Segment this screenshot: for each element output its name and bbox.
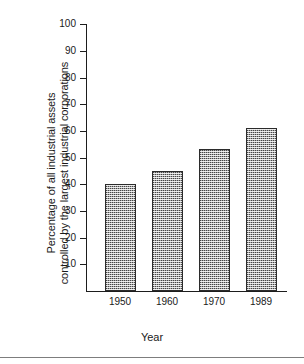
y-tick-label: 90 bbox=[16, 46, 76, 56]
bar-1950 bbox=[105, 184, 136, 291]
y-tick-label: 100 bbox=[16, 19, 76, 29]
bar-1989 bbox=[246, 128, 277, 291]
y-axis-title-line-1: Percentage of all industrial assets bbox=[45, 93, 58, 254]
y-axis-title: Percentage of all industrial assets cont… bbox=[41, 18, 75, 328]
y-tick-mark bbox=[80, 24, 86, 25]
bottom-divider bbox=[0, 357, 304, 358]
y-tick-label: 60 bbox=[16, 126, 76, 136]
y-axis-line bbox=[86, 24, 87, 292]
y-tick-label: 80 bbox=[16, 73, 76, 83]
y-tick-label: 70 bbox=[16, 99, 76, 109]
x-tick-label-1989: 1989 bbox=[231, 296, 291, 308]
y-tick-mark bbox=[80, 264, 86, 265]
x-axis-baseline bbox=[86, 291, 287, 292]
y-axis-title-line-2: controlled by the largest industrial cor… bbox=[58, 62, 71, 285]
y-tick-mark bbox=[80, 158, 86, 159]
y-tick-label: 50 bbox=[16, 153, 76, 163]
y-tick-label: 40 bbox=[16, 179, 76, 189]
y-tick-label: 30 bbox=[16, 206, 76, 216]
y-tick-label: 20 bbox=[16, 233, 76, 243]
y-tick-mark bbox=[80, 51, 86, 52]
y-tick-label: 10 bbox=[16, 259, 76, 269]
bar-1960 bbox=[152, 171, 183, 291]
bar-chart-figure: Percentage of all industrial assets cont… bbox=[0, 0, 304, 364]
y-tick-mark bbox=[80, 104, 86, 105]
y-tick-mark bbox=[80, 211, 86, 212]
x-axis-title: Year bbox=[0, 331, 304, 344]
y-tick-mark bbox=[80, 78, 86, 79]
bar-1970 bbox=[199, 149, 230, 291]
y-tick-mark bbox=[80, 131, 86, 132]
y-tick-mark bbox=[80, 238, 86, 239]
y-tick-mark bbox=[80, 184, 86, 185]
